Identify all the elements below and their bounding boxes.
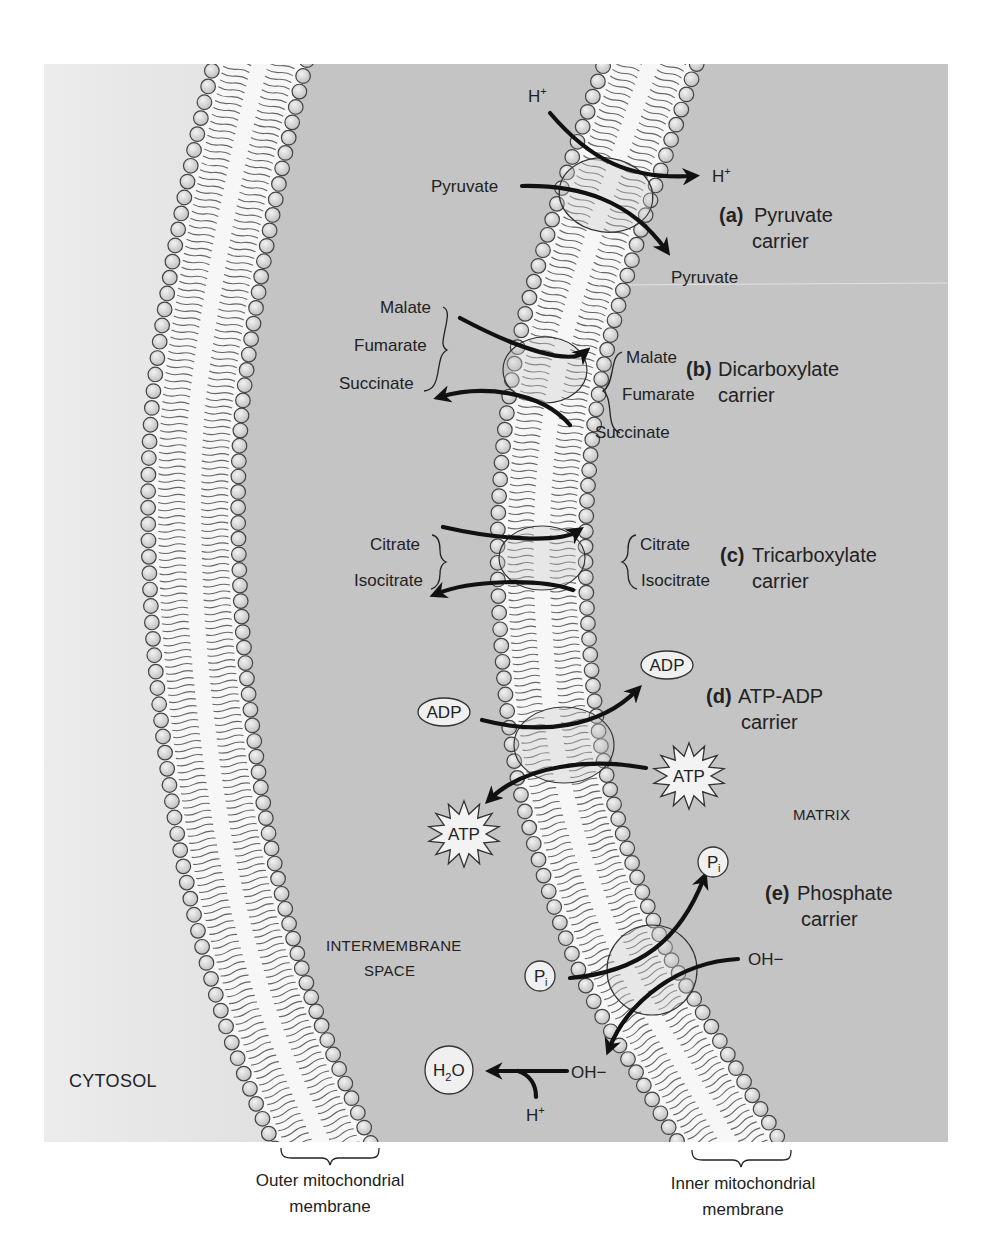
svg-text:P: P (534, 967, 545, 986)
svg-text:i: i (718, 862, 720, 874)
pyruvate-in: Pyruvate (431, 177, 498, 196)
pyruvate-out: Pyruvate (671, 268, 738, 287)
phosphate-right-badge: P i (698, 847, 728, 877)
inner-membrane-caption: Inner mitochondrial membrane (671, 1150, 816, 1219)
carrier-d-name: ATP-ADP (738, 685, 823, 707)
svg-text:membrane: membrane (702, 1200, 783, 1219)
carrier-b-name: Dicarboxylate (718, 358, 839, 380)
svg-text:i: i (545, 976, 547, 988)
svg-text:ADP: ADP (427, 703, 462, 722)
isocitrate-left: Isocitrate (354, 571, 423, 590)
inner-brace (692, 1150, 791, 1167)
intermembrane-label-line2: SPACE (364, 962, 415, 979)
svg-text:ADP: ADP (650, 656, 685, 675)
outer-membrane-caption: Outer mitochondrial membrane (256, 1148, 404, 1216)
outer-brace (281, 1148, 379, 1165)
carrier-e-name: Phosphate (797, 882, 893, 904)
background-panel (44, 29, 948, 1190)
carrier-a-name: Pyruvate (754, 204, 833, 226)
isocitrate-right: Isocitrate (641, 571, 710, 590)
intermembrane-label-line1: INTERMEMBRANE (326, 937, 462, 954)
malate-right: Malate (626, 348, 677, 367)
svg-text:P: P (707, 853, 718, 872)
carrier-e-letter: (e) (765, 882, 789, 904)
svg-text:ATP: ATP (448, 825, 480, 844)
carrier-b-letter: (b) (686, 358, 712, 380)
water-badge: H2O (425, 1046, 473, 1094)
svg-text:ATP: ATP (673, 767, 705, 786)
hydroxide-right: OH− (748, 950, 784, 969)
carrier-a-letter: (a) (719, 204, 743, 226)
citrate-right: Citrate (640, 535, 690, 554)
carrier-protein (607, 925, 697, 1015)
carrier-c-name: Tricarboxylate (752, 544, 877, 566)
mitochondrial-transport-diagram: H+ H+ Pyruvate Pyruvate (a) Pyruvate car… (0, 0, 986, 1258)
hydroxide-left: OH− (571, 1063, 607, 1082)
matrix-label: MATRIX (793, 806, 850, 823)
succinate-right: Succinate (595, 423, 670, 442)
carrier-a-name-line2: carrier (752, 230, 809, 252)
cytosol-label: CYTOSOL (69, 1071, 157, 1091)
succinate-left: Succinate (339, 374, 414, 393)
adp-left-badge: ADP (418, 698, 470, 726)
malate-left: Malate (380, 298, 431, 317)
fumarate-left: Fumarate (354, 336, 427, 355)
svg-text:Inner mitochondrial: Inner mitochondrial (671, 1174, 816, 1193)
carrier-e-name-line2: carrier (801, 908, 858, 930)
carrier-c-letter: (c) (720, 544, 744, 566)
carrier-d-name-line2: carrier (741, 711, 798, 733)
phosphate-left-badge: P i (525, 961, 555, 991)
svg-text:membrane: membrane (289, 1197, 370, 1216)
carrier-protein (514, 707, 614, 783)
fumarate-right: Fumarate (622, 385, 695, 404)
carrier-d-letter: (d) (706, 685, 732, 707)
svg-text:Outer mitochondrial: Outer mitochondrial (256, 1171, 404, 1190)
citrate-left: Citrate (370, 535, 420, 554)
adp-right-badge: ADP (641, 651, 693, 679)
carrier-b-name-line2: carrier (718, 384, 775, 406)
carrier-c-name-line2: carrier (752, 570, 809, 592)
